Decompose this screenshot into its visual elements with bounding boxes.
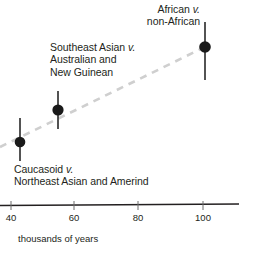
datapoint-african [199, 41, 211, 53]
x-tick-label-100: 100 [188, 212, 218, 223]
label-african-italic-v: v. [193, 3, 200, 15]
x-tick-label-80: 80 [123, 212, 153, 223]
x-axis-title: thousands of years [18, 233, 98, 244]
label-african-line2: non-African [147, 15, 200, 27]
label-caucasoid-line1: Caucasoid [14, 163, 66, 175]
datapoint-caucasoid [15, 137, 26, 148]
label-southeast-italic-v: v. [128, 41, 135, 53]
label-southeast-line1: Southeast Asian [50, 41, 128, 53]
label-southeast-asian-v-australian: Southeast Asian v. Australian and New Gu… [50, 41, 135, 78]
datapoint-southeast-asian [52, 104, 63, 115]
scatter-plot-figure: African v. non-African Southeast Asian v… [0, 0, 256, 254]
x-tick-label-40: 40 [0, 212, 26, 223]
label-southeast-line3: New Guinean [50, 66, 113, 78]
label-african-line1: African [158, 3, 193, 15]
label-african-v-non-african: African v. non-African [110, 3, 200, 28]
x-tick-label-60: 60 [59, 212, 89, 223]
label-caucasoid-line2: Northeast Asian and Amerind [14, 175, 149, 187]
label-caucasoid-italic-v: v. [66, 163, 73, 175]
label-southeast-line2: Australian and [50, 53, 116, 65]
label-caucasoid-v-northeast-asian: Caucasoid v. Northeast Asian and Amerind [14, 163, 149, 188]
